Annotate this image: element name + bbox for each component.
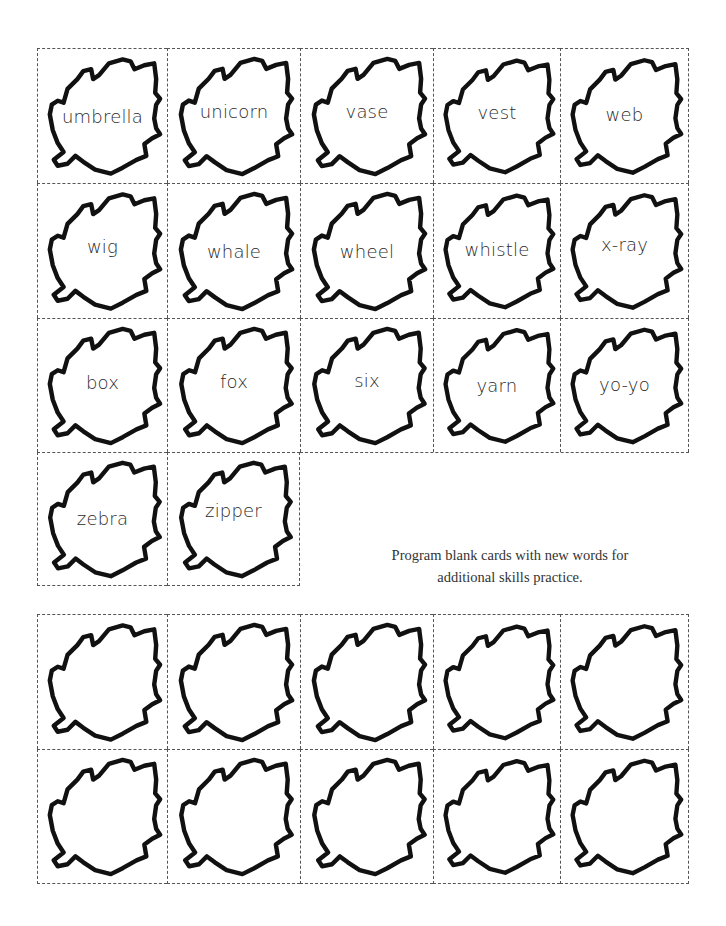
card-word: six: [301, 372, 433, 390]
word-card: fox: [167, 318, 300, 452]
leaf-icon: [561, 615, 688, 749]
blank-card: [37, 614, 167, 749]
word-card: yo-yo: [560, 318, 689, 452]
word-card: wheel: [300, 183, 433, 318]
word-card: vest: [433, 48, 560, 183]
word-card: zebra: [37, 452, 167, 586]
card-word: vest: [434, 104, 560, 122]
word-card: yarn: [433, 318, 560, 452]
leaf-icon: [434, 615, 560, 749]
blank-card: [300, 614, 433, 749]
card-word: unicorn: [168, 103, 300, 121]
leaf-icon: [38, 615, 167, 749]
word-card: x-ray: [560, 183, 689, 318]
card-word: wig: [38, 238, 167, 256]
word-card: wig: [37, 183, 167, 318]
leaf-icon: [301, 615, 433, 749]
card-word: whistle: [434, 241, 560, 259]
instructions-line-1: Program blank cards with new words for: [340, 544, 680, 566]
card-word: wheel: [301, 243, 433, 261]
leaf-icon: [168, 750, 300, 883]
word-card: umbrella: [37, 48, 167, 183]
card-word: yarn: [434, 377, 560, 395]
blank-card: [167, 614, 300, 749]
blank-card-grid: [37, 614, 689, 884]
word-card: zipper: [167, 452, 300, 586]
card-word: web: [561, 106, 688, 124]
card-word: zipper: [168, 502, 299, 520]
word-card: six: [300, 318, 433, 452]
word-card: web: [560, 48, 689, 183]
card-word: box: [38, 374, 167, 392]
card-word: yo-yo: [561, 376, 688, 394]
blank-card: [433, 614, 560, 749]
card-word: x-ray: [561, 236, 688, 254]
word-card: whale: [167, 183, 300, 318]
leaf-icon: [168, 615, 300, 749]
instructions-line-2: additional skills practice.: [340, 566, 680, 588]
leaf-icon: [434, 750, 560, 883]
word-card: whistle: [433, 183, 560, 318]
blank-card: [433, 749, 560, 884]
word-card: box: [37, 318, 167, 452]
instructions-text: Program blank cards with new words for a…: [340, 544, 680, 588]
word-card-grid: umbrella unicorn vase vest web wig whale…: [37, 48, 689, 586]
card-word: fox: [168, 373, 300, 391]
blank-card: [300, 749, 433, 884]
blank-card: [37, 749, 167, 884]
cut-line: [300, 452, 689, 453]
card-word: umbrella: [38, 108, 167, 126]
blank-card: [560, 614, 689, 749]
leaf-icon: [561, 750, 688, 883]
word-card: unicorn: [167, 48, 300, 183]
word-card: vase: [300, 48, 433, 183]
leaf-icon: [38, 750, 167, 883]
leaf-icon: [301, 750, 433, 883]
card-word: zebra: [38, 510, 167, 528]
card-word: whale: [168, 243, 300, 261]
blank-card: [167, 749, 300, 884]
blank-card: [560, 749, 689, 884]
card-word: vase: [301, 103, 433, 121]
